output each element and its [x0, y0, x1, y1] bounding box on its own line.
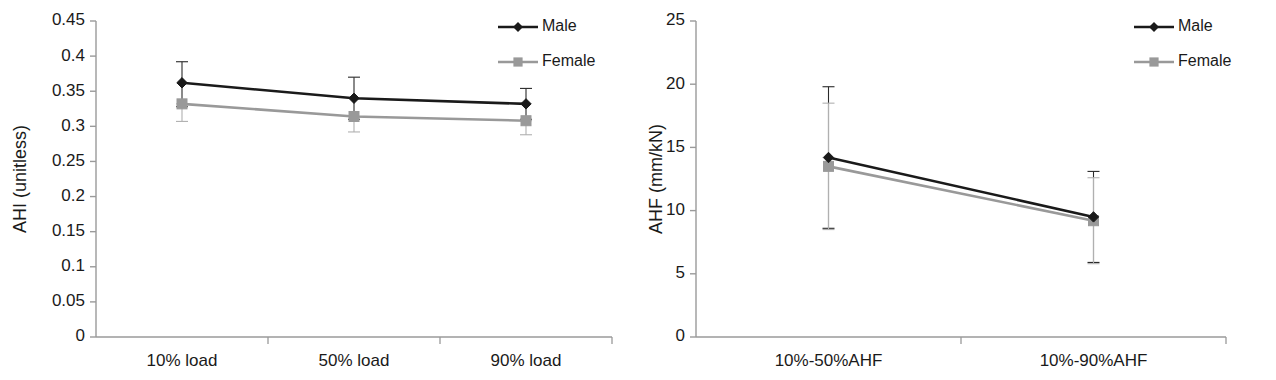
legend-label-female: Female	[542, 52, 595, 69]
data-point-marker-male	[521, 99, 531, 109]
data-point-marker-male	[349, 93, 359, 103]
y-axis-title: AHF (mm/kN)	[646, 124, 666, 234]
data-point-marker-female	[177, 99, 187, 109]
chart-panel-ahi: 00.050.10.150.20.250.30.350.40.45AHI (un…	[0, 0, 638, 380]
legend-entry-male: Male	[1134, 17, 1213, 34]
y-axis-tick-label: 5	[676, 263, 685, 282]
x-axis-tick-label: 50% load	[319, 351, 390, 370]
y-axis-tick-label: 20	[666, 74, 685, 93]
legend-square-marker-icon	[1149, 57, 1158, 66]
two-panel-figure: 00.050.10.150.20.250.30.350.40.45AHI (un…	[0, 0, 1276, 380]
y-axis-tick-label: 0.25	[52, 151, 85, 170]
y-axis-tick-label: 0.2	[61, 186, 85, 205]
x-axis-tick-label: 10% load	[147, 351, 218, 370]
series-line-male	[829, 158, 1094, 217]
y-axis-tick-label: 0.35	[52, 81, 85, 100]
y-axis-tick-label: 15	[666, 137, 685, 156]
y-axis-tick-label: 0	[76, 326, 85, 345]
legend-label-male: Male	[1178, 17, 1213, 34]
chart-panel-ahf: 0510152025AHF (mm/kN)10%-50%AHF10%-90%AH…	[638, 0, 1276, 380]
legend-entry-female: Female	[1134, 52, 1231, 69]
data-point-marker-female	[349, 112, 359, 122]
data-point-marker-female	[521, 116, 531, 126]
legend-entry-male: Male	[498, 17, 577, 34]
legend-diamond-marker-icon	[1149, 22, 1159, 32]
y-axis-tick-label: 25	[666, 10, 685, 29]
y-axis-tick-label: 0.4	[61, 46, 85, 65]
y-axis-tick-label: 0.15	[52, 221, 85, 240]
x-axis-tick-label: 90% load	[491, 351, 562, 370]
y-axis-tick-label: 0.1	[61, 256, 85, 275]
ahi-line-chart: 00.050.10.150.20.250.30.350.40.45AHI (un…	[0, 0, 638, 380]
ahf-line-chart: 0510152025AHF (mm/kN)10%-50%AHF10%-90%AH…	[638, 0, 1276, 380]
legend-label-male: Male	[542, 17, 577, 34]
legend-square-marker-icon	[513, 57, 522, 66]
y-axis-tick-label: 0	[676, 326, 685, 345]
x-axis-tick-label: 10%-90%AHF	[1040, 351, 1148, 370]
data-point-marker-male	[177, 78, 187, 88]
legend-entry-female: Female	[498, 52, 595, 69]
x-axis-tick-label: 10%-50%AHF	[775, 351, 883, 370]
y-axis-tick-label: 0.05	[52, 291, 85, 310]
series-line-female	[829, 166, 1094, 220]
legend-label-female: Female	[1178, 52, 1231, 69]
y-axis-tick-label: 10	[666, 200, 685, 219]
y-axis-title: AHI (unitless)	[10, 125, 30, 233]
legend-diamond-marker-icon	[513, 22, 523, 32]
y-axis-tick-label: 0.45	[52, 10, 85, 29]
y-axis-tick-label: 0.3	[61, 116, 85, 135]
